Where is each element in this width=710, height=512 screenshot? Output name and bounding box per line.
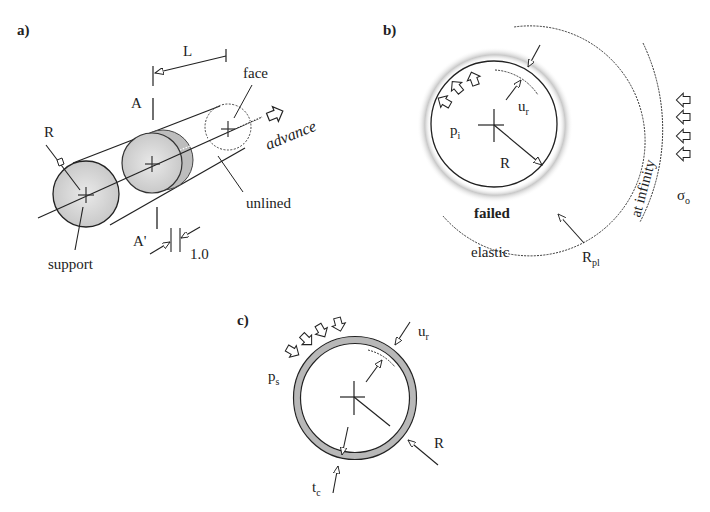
- advance-arrow-icon: [265, 104, 286, 125]
- panel-c: c) ur ps R tc: [237, 312, 444, 498]
- panel-a-tag: a): [17, 22, 30, 39]
- label-p: ps: [268, 368, 280, 387]
- label-support: support: [48, 256, 94, 272]
- label-elastic: elastic: [471, 244, 510, 260]
- panel-c-tag: c): [237, 312, 249, 329]
- label-sigma: σo: [677, 187, 690, 206]
- radius-line: [354, 397, 390, 426]
- label-face: face: [243, 65, 268, 81]
- far-field-stress-arrows: [676, 93, 690, 161]
- thickness-arrow-inner: [342, 427, 348, 455]
- displacement-arrow-outer: [395, 322, 410, 345]
- label-failed: failed: [474, 205, 510, 221]
- label-Rpl: Rpl: [582, 249, 600, 268]
- label-unit-width: 1.0: [190, 246, 209, 262]
- label-R: R: [434, 435, 444, 451]
- label-unlined: unlined: [246, 195, 291, 211]
- label-R: R: [500, 155, 510, 171]
- width-dimension-left: [150, 242, 170, 254]
- label-t: tc: [312, 479, 321, 498]
- center-mark: [340, 381, 365, 415]
- width-dimension-right: [181, 227, 200, 238]
- thickness-arrow-outer: [333, 466, 338, 493]
- label-advance: advance: [263, 117, 319, 153]
- panel-a: a) L A A' R: [17, 22, 319, 272]
- tunnel-diagram: a) L A A' R: [0, 0, 710, 512]
- label-R: R: [44, 124, 54, 140]
- plastic-radius-arrow: [558, 214, 584, 243]
- label-u: ur: [418, 323, 430, 342]
- panel-b: b) R ur pi failed elastic: [383, 22, 690, 268]
- label-L: L: [183, 43, 192, 59]
- label-A: A: [131, 95, 142, 111]
- label-A-prime: A': [133, 233, 147, 249]
- radius-arrow-icon: [57, 158, 64, 166]
- displacement-arrow-inner: [366, 360, 382, 382]
- panel-b-tag: b): [383, 22, 396, 39]
